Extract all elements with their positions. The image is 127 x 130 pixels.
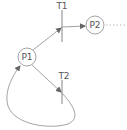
- arc-t1-p2: [62, 26, 85, 27]
- transition-t1: T1: [55, 1, 67, 42]
- place-p2-label: P2: [89, 20, 100, 30]
- place-p1: P1: [18, 48, 36, 66]
- place-p1-label: P1: [21, 52, 32, 62]
- arc-p1-t2: [32, 65, 61, 92]
- petri-net-diagram: P1 P2 T1 T2: [0, 0, 127, 130]
- transition-t2: T2: [57, 71, 69, 104]
- transition-t1-label: T1: [55, 1, 67, 11]
- transition-t2-label: T2: [57, 71, 69, 81]
- arc-p1-t1: [33, 28, 61, 50]
- place-p2: P2: [86, 16, 104, 34]
